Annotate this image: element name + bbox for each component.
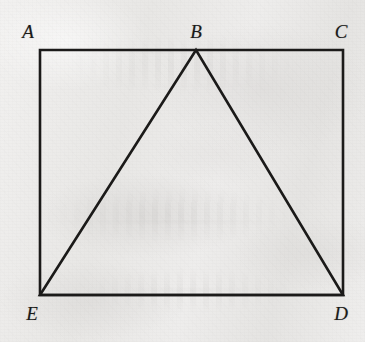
geometry-figure-canvas [0,0,365,342]
vertex-label-d: D [334,304,348,323]
vertex-label-c: C [335,22,348,41]
triangle-bed [40,50,343,295]
vertex-label-b: B [190,22,202,41]
vertex-label-a: A [22,22,34,41]
geometry-figure-page: A B C D E [0,0,365,342]
vertex-label-e: E [26,304,38,323]
rectangle-acde [40,50,343,295]
